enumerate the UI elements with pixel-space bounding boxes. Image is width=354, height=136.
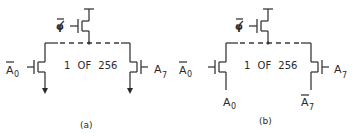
panel-b: φ A 0 A 0 A [179,9,347,126]
output-arrow-right-a [127,88,133,94]
left-gate-label-a: A [6,64,14,77]
left-transistor-b [208,43,226,90]
caption-b: (b) [259,116,272,126]
right-gate-sub-a: 7 [162,71,167,80]
left-gate-sub-b: 0 [187,70,192,79]
right-transistor-a [127,43,148,94]
right-source-sub-b: 7 [309,103,314,112]
circuit-svg: φ A 0 [0,0,354,136]
right-source-label-b: A [301,96,309,109]
right-gate-sub-b: 7 [342,71,347,80]
precharge-transistor-b [249,9,273,43]
center-text-a: 1 OF 256 [64,60,117,71]
left-gate-sub-a: 0 [14,70,19,79]
output-arrow-left-a [42,88,48,94]
panel-a: φ A 0 [6,9,167,130]
decoder-diagram: φ A 0 [0,0,354,136]
right-gate-label-a: A [154,63,162,76]
center-text-b: 1 OF 256 [244,60,297,71]
left-source-label-b: A [223,96,231,109]
caption-a: (a) [80,120,93,130]
precharge-transistor-a [70,9,94,43]
right-gate-label-b: A [334,63,342,76]
left-transistor-a [27,43,48,94]
left-source-sub-b: 0 [231,102,236,111]
left-gate-label-b: A [179,64,187,77]
right-transistor-b [311,43,329,90]
